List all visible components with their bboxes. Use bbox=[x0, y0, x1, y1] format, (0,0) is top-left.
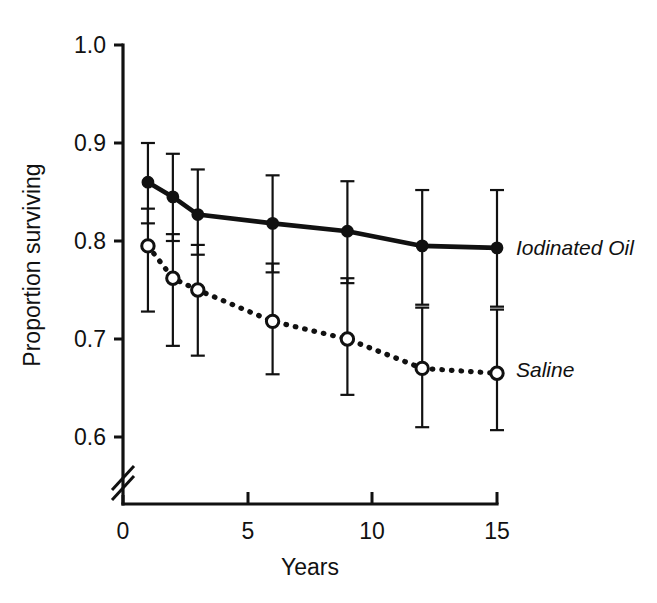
data-point-filled bbox=[267, 218, 278, 229]
data-point-filled bbox=[342, 226, 353, 237]
x-tick-label-0: 0 bbox=[117, 518, 130, 544]
y-tick-label-0-7: 0.7 bbox=[74, 326, 106, 352]
series-line-2 bbox=[148, 246, 497, 373]
data-point-filled bbox=[167, 191, 178, 202]
series-label-layer: Iodinated OilSaline bbox=[516, 236, 635, 381]
data-point-filled bbox=[192, 209, 203, 220]
data-point-open bbox=[266, 315, 278, 327]
series-layer bbox=[141, 143, 504, 430]
data-point-open bbox=[167, 272, 179, 284]
data-point-filled bbox=[142, 177, 153, 188]
y-axis-title: Proportion surviving bbox=[19, 163, 45, 366]
y-tick-label-0-6: 0.6 bbox=[74, 424, 106, 450]
data-point-filled bbox=[417, 240, 428, 251]
data-point-filled bbox=[491, 242, 502, 253]
data-point-open bbox=[491, 367, 503, 379]
x-axis-title: Years bbox=[281, 554, 339, 580]
survival-chart-figure: 1.0 0.9 0.8 0.7 0.6 0 5 10 15 Years Prop… bbox=[0, 0, 657, 603]
y-tick-label-0-8: 0.8 bbox=[74, 228, 106, 254]
series-label-2: Saline bbox=[516, 358, 574, 381]
series-label-1: Iodinated Oil bbox=[516, 236, 635, 259]
chart-canvas: 1.0 0.9 0.8 0.7 0.6 0 5 10 15 Years Prop… bbox=[0, 0, 657, 603]
y-tick-label-0-9: 0.9 bbox=[74, 130, 106, 156]
x-tick-label-15: 15 bbox=[484, 518, 510, 544]
x-tick-label-10: 10 bbox=[359, 518, 385, 544]
data-point-open bbox=[192, 284, 204, 296]
x-tick-label-5: 5 bbox=[242, 518, 255, 544]
data-point-open bbox=[142, 240, 154, 252]
y-tick-label-1-0: 1.0 bbox=[74, 32, 106, 58]
data-point-open bbox=[341, 333, 353, 345]
data-point-open bbox=[416, 362, 428, 374]
